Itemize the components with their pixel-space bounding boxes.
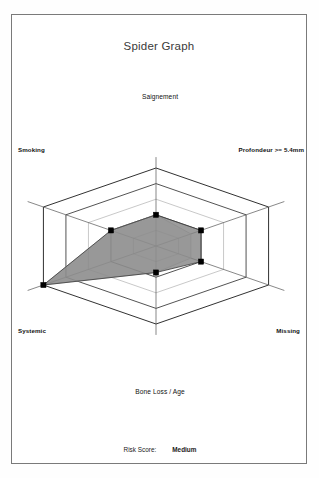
- spider-graph-card: Spider Graph Saignement Profondeur >= 5.…: [11, 14, 307, 464]
- axis-label-systemic: Systemic: [18, 327, 46, 334]
- risk-score-label: Risk Score:: [124, 446, 157, 453]
- axis-label-missing: Missing: [276, 327, 300, 334]
- axis-label-bone-loss-age: Bone Loss / Age: [12, 388, 308, 395]
- risk-score-row: Risk Score:Medium: [12, 446, 308, 453]
- axis-label-profondeur: Profondeur >= 5.4mm: [238, 146, 304, 153]
- radar-chart: Saignement Profondeur >= 5.4mm Missing B…: [12, 15, 308, 465]
- risk-score-value: Medium: [172, 446, 196, 453]
- page-root: Spider Graph Saignement Profondeur >= 5.…: [0, 0, 319, 478]
- axis-label-smoking: Smoking: [18, 146, 45, 153]
- radar-series: [43, 215, 201, 285]
- radar-chart-svg: [12, 15, 308, 465]
- axis-label-saignement: Saignement: [12, 93, 308, 100]
